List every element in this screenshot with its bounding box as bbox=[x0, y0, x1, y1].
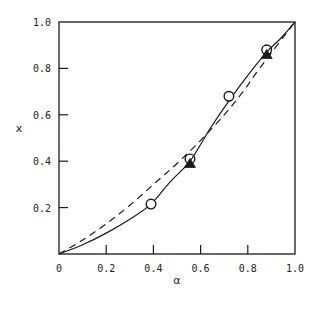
dashed-curve bbox=[59, 22, 295, 254]
plot-border bbox=[59, 22, 295, 254]
y-axis-label: x bbox=[16, 122, 23, 135]
data-markers bbox=[146, 45, 272, 209]
x-tick-label: 0.8 bbox=[239, 263, 257, 274]
circle-marker bbox=[262, 45, 272, 55]
y-tick-label: 0.8 bbox=[33, 63, 51, 74]
x-tick-label: 1.0 bbox=[286, 263, 304, 274]
x-tick-label: 0.4 bbox=[144, 263, 162, 274]
plot-frame bbox=[59, 22, 295, 254]
y-tick-label: 0.2 bbox=[33, 203, 51, 214]
circle-marker bbox=[185, 154, 195, 164]
solid-curve bbox=[59, 22, 295, 254]
circle-marker bbox=[146, 199, 156, 209]
x-axis-label: α bbox=[173, 274, 180, 287]
x-tick-label: 0.2 bbox=[97, 263, 115, 274]
y-tick-label: 0.4 bbox=[33, 156, 51, 167]
circle-marker bbox=[224, 91, 234, 101]
chart: 00.20.40.60.81.00.20.40.60.81.0 α x bbox=[0, 0, 320, 311]
y-tick-label: 1.0 bbox=[33, 17, 51, 28]
x-tick-label: 0.6 bbox=[192, 263, 210, 274]
y-tick-label: 0.6 bbox=[33, 110, 51, 121]
x-tick-label: 0 bbox=[56, 263, 62, 274]
data-series bbox=[59, 22, 295, 254]
axis-ticks bbox=[59, 68, 248, 254]
